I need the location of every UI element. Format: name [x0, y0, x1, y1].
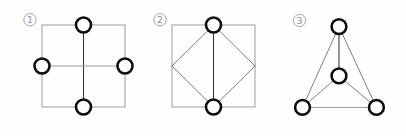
node-center[interactable]	[332, 68, 347, 83]
node-bottom[interactable]	[206, 100, 221, 115]
node-bottom[interactable]	[76, 100, 91, 115]
figure-label-text: 1	[27, 14, 33, 25]
node-apex[interactable]	[332, 19, 347, 34]
edge-triangle-left-side	[303, 27, 339, 108]
figure-1: 1	[0, 0, 140, 136]
node-top[interactable]	[76, 18, 91, 33]
node-right[interactable]	[118, 59, 133, 74]
edge-triangle-right-side	[339, 27, 376, 108]
node-top[interactable]	[206, 18, 221, 33]
node-bottom-right[interactable]	[369, 100, 384, 115]
node-left[interactable]	[35, 59, 50, 74]
node-bottom-left[interactable]	[295, 100, 310, 115]
figure-2: 2	[136, 0, 276, 136]
figure-label-text: 3	[297, 15, 303, 26]
figure-label-text: 2	[157, 14, 163, 25]
diagram-canvas: 1 2 3	[0, 0, 406, 136]
figure-3: 3	[268, 0, 406, 136]
